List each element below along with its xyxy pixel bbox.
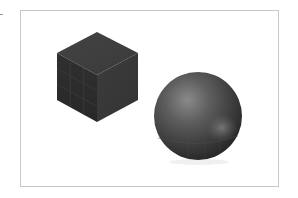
sphere xyxy=(154,72,242,165)
render-scene xyxy=(0,0,298,198)
cube xyxy=(57,32,138,122)
